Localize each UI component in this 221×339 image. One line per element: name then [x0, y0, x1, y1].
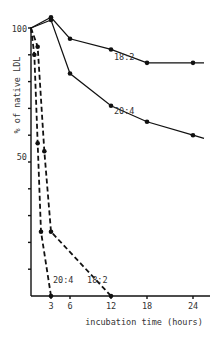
series-label: 18:2	[114, 52, 134, 62]
series-label: 20:4	[114, 106, 134, 116]
data-point	[109, 294, 114, 299]
data-point	[32, 53, 37, 58]
y-tick-label-100: 100	[12, 24, 27, 34]
series-line	[31, 28, 51, 296]
line-chart: 100 50 3 6 12 18 24 incubation time (hou…	[0, 0, 221, 339]
axes	[28, 27, 210, 299]
series-20-4-dashed: 20:4	[31, 28, 73, 298]
x-tick-label-24: 24	[188, 301, 198, 311]
data-point	[68, 36, 73, 41]
data-point	[39, 229, 44, 234]
data-point	[145, 120, 150, 125]
x-tick-label-12: 12	[106, 301, 116, 311]
data-point	[35, 44, 40, 49]
x-tick-label-18: 18	[142, 301, 152, 311]
x-axis-title: incubation time (hours)	[85, 317, 203, 327]
data-point	[49, 18, 54, 23]
data-point	[49, 294, 54, 299]
data-point	[109, 103, 114, 108]
data-point	[49, 229, 54, 234]
data-point	[68, 71, 73, 76]
data-point	[42, 149, 47, 154]
data-point	[145, 61, 150, 66]
series-label: 18:2	[87, 275, 107, 285]
data-point	[191, 61, 196, 66]
series-label: 20:4	[53, 275, 73, 285]
y-axis-title: % of native LDL	[12, 57, 22, 134]
series-line	[31, 28, 111, 296]
x-tick-label-3: 3	[48, 301, 53, 311]
data-point	[35, 141, 40, 146]
x-tick-label-6: 6	[67, 301, 72, 311]
series-18-2-solid: 18:2	[31, 15, 204, 65]
data-point	[109, 47, 114, 52]
series-18-2-dashed: 18:2	[31, 28, 113, 298]
series-line	[31, 20, 204, 138]
series-layer: 18:220:418:220:4	[31, 15, 204, 298]
data-point	[191, 133, 196, 138]
y-tick-label-50: 50	[17, 152, 27, 162]
series-20-4-solid: 20:4	[31, 18, 204, 139]
